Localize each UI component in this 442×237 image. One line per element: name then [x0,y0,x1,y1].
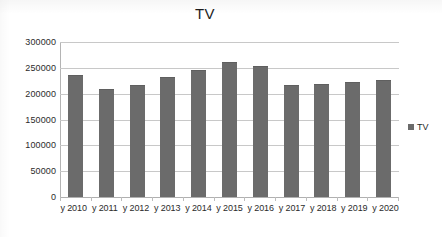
x-tick-label-y-2017: y 2017 [276,203,307,214]
x-tick-label-y-2013: y 2013 [152,203,183,214]
bar-slot [183,42,214,197]
legend-label-tv: TV [417,122,429,132]
y-tick-label-250000: 250000 [4,64,56,73]
y-tick-label-100000: 100000 [4,141,56,150]
bar-y-2014[interactable] [191,70,206,197]
bar-slot [152,42,183,197]
bar-y-2016[interactable] [253,66,268,197]
x-axis-tick-marks [60,197,399,201]
bar-slot [245,42,276,197]
x-tick-y-2018 [306,197,337,201]
bar-slot [122,42,153,197]
plot-area [60,42,399,197]
x-tick-y-2010 [60,197,91,201]
bar-slot [368,42,399,197]
x-tick-label-y-2014: y 2014 [183,203,214,214]
bar-slot [60,42,91,197]
x-tick-y-2014 [183,197,214,201]
bar-y-2019[interactable] [345,82,360,197]
x-tick-label-y-2010: y 2010 [58,203,89,214]
x-tick-label-y-2011: y 2011 [89,203,120,214]
bar-slot [307,42,338,197]
bar-slot [214,42,245,197]
x-tick-y-2016 [244,197,275,201]
y-tick-label-200000: 200000 [4,90,56,99]
bar-y-2020[interactable] [376,80,391,197]
bar-series-tv [60,42,399,197]
x-tick-label-y-2018: y 2018 [308,203,339,214]
x-tick-y-2020 [367,197,399,201]
y-axis-tick-labels: 050000100000150000200000250000300000 [0,0,56,237]
chart-title: TV [0,5,410,23]
x-tick-y-2013 [152,197,183,201]
x-tick-y-2015 [214,197,245,201]
x-tick-label-y-2016: y 2016 [245,203,276,214]
bar-y-2012[interactable] [130,85,145,197]
y-tick-label-300000: 300000 [4,38,56,47]
bar-y-2018[interactable] [314,84,329,197]
bar-slot [276,42,307,197]
x-axis-tick-labels: y 2010y 2011y 2012y 2013y 2014y 2015y 20… [58,203,401,214]
bar-y-2011[interactable] [99,89,114,197]
x-tick-label-y-2012: y 2012 [120,203,151,214]
bar-chart: TV 050000100000150000200000250000300000 … [0,0,442,237]
y-tick-label-0: 0 [4,193,56,202]
bar-y-2010[interactable] [68,75,83,197]
bar-y-2015[interactable] [222,62,237,197]
x-tick-y-2019 [337,197,368,201]
x-tick-y-2012 [121,197,152,201]
x-tick-label-y-2015: y 2015 [214,203,245,214]
x-tick-y-2011 [91,197,122,201]
bar-slot [91,42,122,197]
chart-legend: TV [408,122,429,132]
bar-y-2017[interactable] [284,85,299,197]
y-tick-label-150000: 150000 [4,116,56,125]
x-tick-label-y-2019: y 2019 [339,203,370,214]
bar-slot [337,42,368,197]
bar-y-2013[interactable] [160,77,175,197]
legend-swatch-icon [408,124,414,130]
y-tick-label-50000: 50000 [4,167,56,176]
x-tick-y-2017 [275,197,306,201]
x-tick-label-y-2020: y 2020 [370,203,401,214]
